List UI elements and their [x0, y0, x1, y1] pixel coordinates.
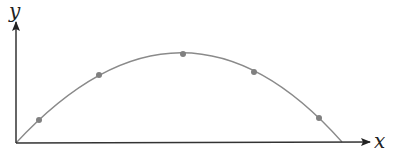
trajectory-point: [251, 69, 257, 75]
trajectory-curve: [16, 53, 342, 143]
trajectory-point: [316, 115, 322, 121]
trajectory-point: [96, 72, 102, 78]
trajectory-diagram: x y: [0, 0, 398, 157]
trajectory-point: [180, 51, 186, 57]
trajectory-point: [36, 117, 42, 123]
x-axis-label: x: [374, 129, 385, 153]
y-axis-label: y: [8, 0, 21, 23]
x-axis: [16, 142, 370, 143]
